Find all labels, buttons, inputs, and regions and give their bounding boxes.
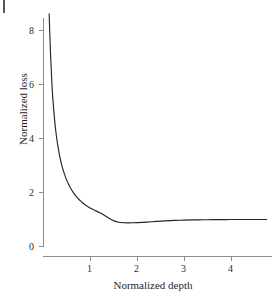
x-tick-label-2: 2 <box>134 264 139 274</box>
y-tick-label-8: 8 <box>29 26 34 36</box>
x-tick-marks <box>91 257 232 261</box>
y-tick-label-2: 2 <box>29 188 34 198</box>
figure-panel: 0 2 4 6 8 1 2 3 4 Normalized loss Normal… <box>0 0 280 302</box>
x-tick-label-4: 4 <box>228 264 233 274</box>
y-axis-title: Normalized loss <box>17 73 29 145</box>
y-axis-title-wrap: Normalized loss <box>13 49 31 169</box>
loss-curve <box>49 14 267 223</box>
y-tick-label-0: 0 <box>29 242 34 252</box>
x-axis-title-wrap: Normalized depth <box>42 275 264 293</box>
x-tick-label-1: 1 <box>87 264 92 274</box>
plot-area <box>0 0 280 302</box>
x-axis-title: Normalized depth <box>113 279 192 291</box>
y-tick-marks <box>39 31 43 247</box>
x-tick-label-3: 3 <box>181 264 186 274</box>
